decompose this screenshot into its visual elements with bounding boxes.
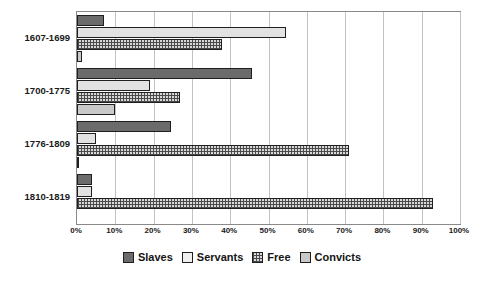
bar-servants-1607-1699 xyxy=(77,27,286,38)
y-axis-label-1700-1775: 1700-1775 xyxy=(0,85,70,96)
y-axis-label-1607-1699: 1607-1699 xyxy=(0,32,70,43)
bar-slaves-1700-1775 xyxy=(77,68,252,79)
legend-item-servants[interactable]: Servants xyxy=(182,251,243,263)
gridline xyxy=(230,12,231,224)
legend-label-slaves: Slaves xyxy=(138,251,173,263)
bar-convicts-1607-1699 xyxy=(77,51,82,62)
plot-area xyxy=(76,11,461,225)
legend-label-free: Free xyxy=(267,251,290,263)
gridline xyxy=(460,12,461,224)
legend-swatch-slaves-icon xyxy=(123,252,134,263)
legend-label-convicts: Convicts xyxy=(315,251,361,263)
x-axis-tick-labels: 0%10%20%30%40%50%60%70%80%90%100% xyxy=(76,226,459,240)
legend-label-servants: Servants xyxy=(197,251,243,263)
x-axis-tick-70%: 70% xyxy=(336,226,352,235)
bar-servants-1810-1819 xyxy=(77,186,92,197)
x-axis-tick-10%: 10% xyxy=(106,226,122,235)
x-axis-tick-20%: 20% xyxy=(145,226,161,235)
bar-free-1776-1809 xyxy=(77,145,349,156)
grouped-bar-chart: 1607-16991700-17751776-18091810-1819 0%1… xyxy=(0,0,484,282)
x-axis-tick-60%: 60% xyxy=(298,226,314,235)
bar-slaves-1810-1819 xyxy=(77,174,92,185)
x-axis-tick-0%: 0% xyxy=(70,226,82,235)
x-axis-tick-30%: 30% xyxy=(183,226,199,235)
legend-swatch-convicts-icon xyxy=(300,252,311,263)
x-axis-tick-80%: 80% xyxy=(374,226,390,235)
bar-servants-1700-1775 xyxy=(77,80,150,91)
gridline xyxy=(422,12,423,224)
y-axis-label-1776-1809: 1776-1809 xyxy=(0,138,70,149)
bar-free-1607-1699 xyxy=(77,39,222,50)
bar-free-1810-1819 xyxy=(77,198,433,209)
bar-free-1700-1775 xyxy=(77,92,180,103)
gridline xyxy=(269,12,270,224)
x-axis-tick-90%: 90% xyxy=(413,226,429,235)
bar-convicts-1776-1809 xyxy=(77,157,79,168)
bar-convicts-1700-1775 xyxy=(77,104,115,115)
gridline xyxy=(383,12,384,224)
legend-item-convicts[interactable]: Convicts xyxy=(300,251,361,263)
legend-item-free[interactable]: Free xyxy=(252,251,290,263)
y-axis-label-1810-1819: 1810-1819 xyxy=(0,191,70,202)
chart-legend: SlavesServantsFreeConvicts xyxy=(0,251,484,263)
x-axis-tick-50%: 50% xyxy=(259,226,275,235)
x-axis-tick-40%: 40% xyxy=(221,226,237,235)
bar-slaves-1776-1809 xyxy=(77,121,171,132)
legend-swatch-servants-icon xyxy=(182,252,193,263)
legend-item-slaves[interactable]: Slaves xyxy=(123,251,173,263)
gridline xyxy=(307,12,308,224)
bar-servants-1776-1809 xyxy=(77,133,96,144)
bar-slaves-1607-1699 xyxy=(77,15,104,26)
legend-swatch-free-icon xyxy=(252,252,263,263)
x-axis-tick-100%: 100% xyxy=(449,226,469,235)
gridline xyxy=(345,12,346,224)
